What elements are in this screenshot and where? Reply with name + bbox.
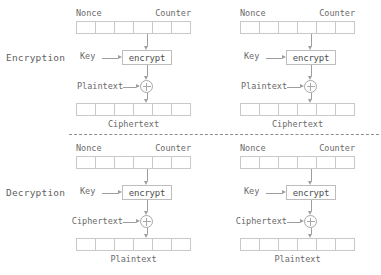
register-cell: [153, 239, 172, 250]
register-cell: [298, 239, 317, 250]
wire-encrypt-to-xor: [147, 65, 148, 76]
counter-label: Counter: [155, 8, 191, 18]
section-label-encryption: Encryption: [6, 52, 65, 63]
counter-label: Counter: [319, 143, 355, 153]
wire-key-to-encrypt: [266, 58, 282, 59]
register-cell: [77, 22, 96, 33]
register-cell: [336, 239, 354, 250]
register-cell: [260, 157, 279, 168]
register-cell: [96, 239, 115, 250]
register-cell: [115, 104, 134, 115]
output-register: [76, 103, 191, 116]
register-cell: [298, 157, 317, 168]
section-label-decryption: Decryption: [6, 187, 65, 198]
counter-register: [240, 21, 355, 34]
register-cell: [115, 22, 134, 33]
register-cell: [172, 239, 190, 250]
register-cell: [336, 22, 354, 33]
nonce-label: Nonce: [240, 143, 266, 153]
register-cell: [77, 104, 96, 115]
counter-register: [76, 21, 191, 34]
output-caption: Plaintext: [76, 254, 191, 264]
wire-encrypt-to-xor: [147, 200, 148, 211]
counter-label: Counter: [155, 143, 191, 153]
xor-gate-icon: [140, 215, 153, 228]
wire-register-to-encrypt: [311, 169, 312, 181]
ctr-mode-diagram: Encryption Decryption Nonce Counter Key …: [0, 0, 381, 275]
arrowhead-right-icon: [300, 219, 304, 223]
wire-encrypt-to-xor: [311, 65, 312, 76]
register-cell: [241, 22, 260, 33]
wire-encrypt-to-xor: [311, 200, 312, 211]
counter-register: [240, 156, 355, 169]
wire-register-to-encrypt: [147, 169, 148, 181]
register-captions: Nonce Counter: [240, 143, 355, 153]
register-cell: [96, 22, 115, 33]
key-label: Key: [80, 186, 95, 196]
arrowhead-right-icon: [300, 84, 304, 88]
register-cell: [279, 22, 298, 33]
register-cell: [134, 157, 153, 168]
key-label: Key: [244, 51, 259, 61]
register-cell: [260, 22, 279, 33]
encrypt-box: encrypt: [122, 185, 172, 200]
wire-plaintext-to-xor: [287, 87, 300, 88]
xor-input-label: Ciphertext: [54, 216, 123, 226]
register-cell: [172, 104, 190, 115]
key-label: Key: [80, 51, 95, 61]
wire-ciphertext-to-xor: [287, 222, 300, 223]
register-cell: [317, 22, 336, 33]
register-cell: [317, 239, 336, 250]
encrypt-box: encrypt: [122, 50, 172, 65]
register-cell: [153, 104, 172, 115]
register-cell: [134, 22, 153, 33]
xor-input-label: Ciphertext: [218, 216, 287, 226]
register-cell: [77, 157, 96, 168]
register-cell: [298, 22, 317, 33]
register-cell: [279, 239, 298, 250]
xor-gate-icon: [140, 80, 153, 93]
nonce-label: Nonce: [76, 143, 102, 153]
register-cell: [279, 157, 298, 168]
counter-label: Counter: [319, 8, 355, 18]
output-caption: Ciphertext: [240, 119, 355, 129]
output-register: [240, 238, 355, 251]
register-cell: [279, 104, 298, 115]
counter-register: [76, 156, 191, 169]
register-captions: Nonce Counter: [76, 8, 191, 18]
register-cell: [241, 239, 260, 250]
wire-plaintext-to-xor: [123, 87, 136, 88]
register-cell: [153, 157, 172, 168]
register-cell: [96, 157, 115, 168]
register-cell: [317, 157, 336, 168]
arrowhead-right-icon: [136, 219, 140, 223]
nonce-label: Nonce: [76, 8, 102, 18]
section-divider: [69, 134, 379, 135]
output-register: [76, 238, 191, 251]
output-caption: Plaintext: [240, 254, 355, 264]
register-cell: [317, 104, 336, 115]
register-cell: [336, 157, 354, 168]
output-register: [240, 103, 355, 116]
decryption-block-2: Nonce Counter Key encrypt Ciphertext: [240, 143, 381, 269]
output-caption: Ciphertext: [76, 119, 191, 129]
encrypt-box: encrypt: [286, 185, 336, 200]
nonce-label: Nonce: [240, 8, 266, 18]
register-cell: [96, 104, 115, 115]
xor-gate-icon: [304, 80, 317, 93]
register-captions: Nonce Counter: [76, 143, 191, 153]
wire-register-to-encrypt: [311, 34, 312, 46]
register-cell: [260, 239, 279, 250]
encryption-block-2: Nonce Counter Key encrypt Plaintext: [240, 8, 381, 134]
xor-gate-icon: [304, 215, 317, 228]
wire-key-to-encrypt: [266, 193, 282, 194]
wire-ciphertext-to-xor: [123, 222, 136, 223]
key-label: Key: [244, 186, 259, 196]
register-cell: [115, 157, 134, 168]
register-cell: [336, 104, 354, 115]
register-cell: [241, 104, 260, 115]
register-captions: Nonce Counter: [240, 8, 355, 18]
xor-input-label: Plaintext: [73, 81, 123, 91]
register-cell: [172, 157, 190, 168]
register-cell: [134, 239, 153, 250]
